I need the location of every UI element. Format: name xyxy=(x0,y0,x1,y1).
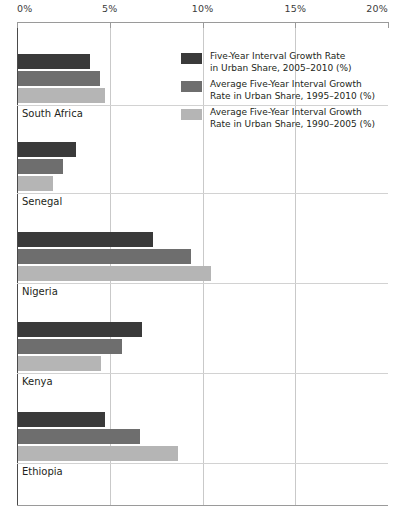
bar xyxy=(18,142,76,157)
legend-label: Average Five-Year Interval Growth Rate i… xyxy=(210,79,375,102)
bar xyxy=(18,429,140,444)
bar xyxy=(18,88,105,103)
legend-item: Average Five-Year Interval Growth Rate i… xyxy=(181,107,399,130)
x-axis-tick-mark xyxy=(203,22,204,28)
x-axis-tick-label: 0% xyxy=(17,3,32,14)
x-axis-tick-mark xyxy=(17,22,18,28)
x-axis-tick-label: 20% xyxy=(366,3,388,14)
legend-label: Five-Year Interval Growth Rate in Urban … xyxy=(210,51,352,74)
category-label: South Africa xyxy=(22,108,83,119)
category-label: Senegal xyxy=(22,196,62,207)
chart-legend: Five-Year Interval Growth Rate in Urban … xyxy=(181,51,399,135)
bar xyxy=(18,159,63,174)
group-separator xyxy=(17,193,388,194)
group-separator xyxy=(17,373,388,374)
bar xyxy=(18,249,191,264)
bar xyxy=(18,71,100,86)
group-separator xyxy=(17,283,388,284)
legend-swatch xyxy=(181,81,202,92)
bar xyxy=(18,54,90,69)
category-label: Nigeria xyxy=(22,286,58,297)
legend-swatch xyxy=(181,53,202,64)
x-axis-tick-label: 10% xyxy=(192,3,214,14)
bar xyxy=(18,339,122,354)
group-separator xyxy=(17,463,388,464)
bar xyxy=(18,266,211,281)
x-axis-tick-label: 5% xyxy=(102,3,117,14)
bar xyxy=(18,322,142,337)
bar xyxy=(18,446,178,461)
bar xyxy=(18,176,53,191)
x-axis-tick-label: 15% xyxy=(284,3,306,14)
legend-item: Average Five-Year Interval Growth Rate i… xyxy=(181,79,399,102)
bar xyxy=(18,232,153,247)
bar xyxy=(18,356,101,371)
category-label: Ethiopia xyxy=(22,466,63,477)
legend-swatch xyxy=(181,109,202,120)
x-axis-tick-mark xyxy=(388,22,389,28)
legend-item: Five-Year Interval Growth Rate in Urban … xyxy=(181,51,399,74)
legend-label: Average Five-Year Interval Growth Rate i… xyxy=(210,107,375,130)
x-axis-tick-mark xyxy=(110,22,111,28)
plot-bottom-border xyxy=(17,505,388,506)
bar-chart: 0%5%10%15%20% South AfricaSenegalNigeria… xyxy=(0,0,405,514)
x-axis-tick-labels: 0%5%10%15%20% xyxy=(0,0,405,22)
category-label: Kenya xyxy=(22,376,53,387)
bar xyxy=(18,412,105,427)
x-axis-tick-mark xyxy=(295,22,296,28)
